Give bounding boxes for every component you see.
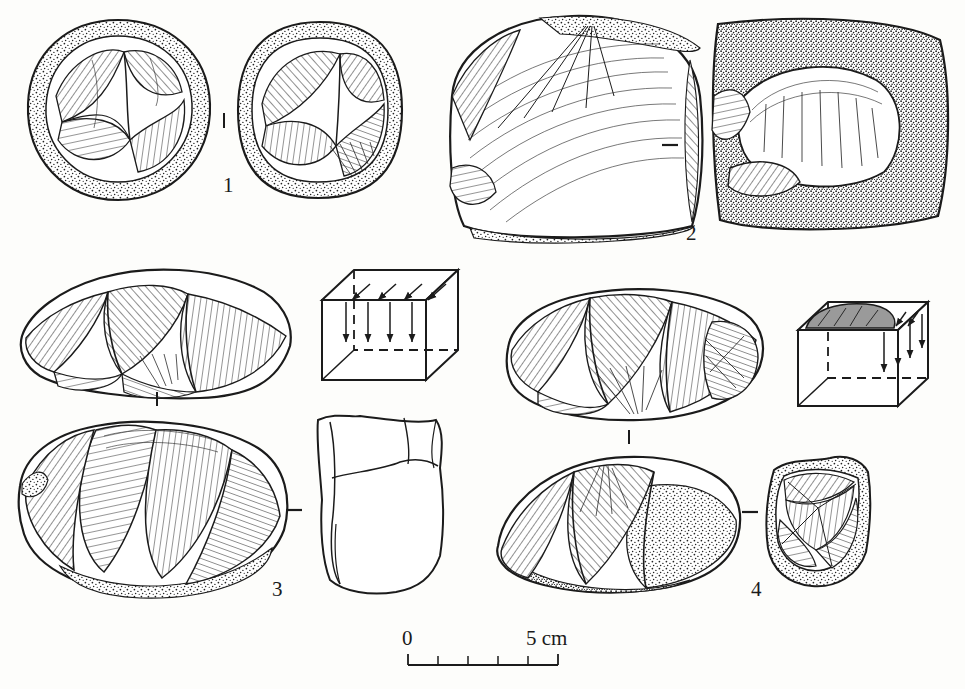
scale-bar-max-label: 5 cm	[526, 628, 567, 649]
figure-1-group: 1	[28, 20, 402, 200]
scale-bar-zero-label: 0	[402, 628, 413, 649]
reduction-cube-1	[322, 270, 458, 380]
core-1-view-b	[238, 22, 402, 198]
flake-2-view-a	[450, 16, 702, 243]
core-4-view-b	[497, 457, 740, 593]
scale-bar	[408, 654, 558, 665]
figure-3-label: 3	[272, 577, 283, 601]
core-4-view-a	[507, 289, 763, 420]
core-3-view-a	[21, 270, 291, 399]
plate-canvas: 1	[0, 0, 965, 689]
figure-1-label: 1	[223, 173, 234, 197]
flake-2-view-b	[712, 19, 948, 230]
lithic-illustration-plate: 1	[0, 0, 965, 689]
core-4-section	[766, 457, 870, 586]
reduction-cube-2	[798, 302, 928, 406]
core-3-view-b	[19, 422, 287, 598]
figure-4-label: 4	[751, 577, 762, 601]
figure-2-group: 2	[450, 16, 948, 245]
figure-2-label: 2	[686, 221, 697, 245]
core-3-section	[317, 416, 443, 594]
core-1-view-a	[28, 20, 210, 200]
